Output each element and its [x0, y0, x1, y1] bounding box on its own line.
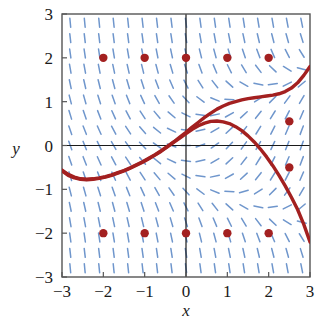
slope-mark: [168, 173, 175, 179]
slope-mark: [254, 206, 263, 208]
slope-mark: [113, 264, 114, 273]
slope-mark: [98, 95, 101, 104]
slope-mark: [84, 248, 85, 257]
slope-mark: [70, 218, 72, 227]
slope-mark: [200, 34, 202, 43]
slope-mark: [97, 157, 101, 165]
slope-mark: [254, 83, 263, 85]
slope-mark: [128, 248, 129, 257]
slope-mark: [69, 95, 71, 104]
slope-mark: [156, 34, 157, 43]
slope-mark: [199, 218, 202, 226]
slope-mark: [70, 64, 72, 73]
slope-mark: [98, 203, 100, 212]
slope-mark: [126, 126, 131, 134]
slope-mark: [84, 264, 85, 273]
slope-mark: [256, 65, 261, 72]
slope-mark: [200, 264, 201, 273]
slope-mark: [99, 34, 100, 43]
slope-mark: [84, 218, 86, 227]
slope-mark: [127, 80, 130, 89]
slope-mark: [226, 81, 233, 87]
slope-mark: [301, 264, 303, 273]
slope-mark: [69, 126, 72, 135]
y-axis-title: y: [10, 139, 20, 158]
slope-mark: [243, 264, 244, 273]
slope-mark: [142, 18, 143, 27]
slope-mark: [83, 111, 86, 120]
slope-mark: [225, 113, 233, 117]
slope-mark: [255, 189, 263, 194]
slope-mark: [84, 18, 85, 27]
slope-mark: [99, 248, 100, 257]
slope-mark: [127, 203, 130, 212]
data-point: [140, 229, 148, 237]
slope-mark: [69, 187, 71, 196]
slope-mark: [113, 18, 114, 27]
slope-mark: [200, 18, 201, 27]
slope-mark: [211, 159, 219, 164]
slope-mark: [257, 249, 259, 258]
slope-mark: [214, 34, 216, 43]
slope-mark: [241, 157, 247, 164]
slope-mark: [70, 18, 71, 27]
slope-mark: [98, 218, 100, 227]
slope-mark: [155, 203, 158, 211]
slope-mark: [84, 49, 85, 58]
slope-mark: [197, 189, 204, 194]
slope-mark: [211, 190, 219, 193]
slope-mark: [155, 188, 159, 196]
slope-mark: [212, 81, 218, 88]
slope-mark: [229, 248, 231, 257]
slope-mark: [113, 80, 115, 89]
slope-mark: [196, 176, 205, 177]
slope-mark: [227, 218, 231, 226]
slope-mark: [154, 111, 160, 118]
slope-mark: [167, 128, 175, 132]
x-tick-label: −3: [53, 282, 71, 301]
slope-mark: [170, 203, 174, 211]
slope-mark: [167, 159, 175, 163]
slope-mark: [98, 111, 101, 119]
slope-mark: [126, 111, 130, 119]
slope-mark: [270, 219, 276, 225]
data-point: [223, 54, 231, 62]
slope-mark: [171, 233, 173, 242]
slope-mark: [113, 248, 114, 257]
x-tick-label: −1: [136, 282, 154, 301]
slope-mark: [300, 111, 304, 119]
slope-mark: [270, 111, 275, 119]
slope-mark: [214, 233, 216, 242]
slope-mark: [283, 82, 291, 86]
slope-mark: [98, 64, 100, 73]
slope-mark: [170, 64, 173, 73]
slope-mark: [99, 264, 100, 273]
slope-mark: [126, 187, 129, 195]
slope-mark: [270, 96, 276, 102]
slope-mark: [213, 218, 217, 226]
slope-mark: [272, 34, 274, 43]
slope-mark: [240, 205, 248, 209]
data-point: [264, 229, 272, 237]
slope-mark: [84, 95, 86, 104]
slope-mark: [170, 80, 174, 88]
slope-mark: [98, 80, 100, 89]
slope-mark: [272, 249, 274, 258]
slope-mark: [243, 34, 245, 43]
slope-mark: [69, 157, 72, 166]
slope-mark: [112, 111, 116, 119]
y-tick-label: −3: [35, 268, 53, 287]
slope-mark: [127, 218, 129, 227]
slope-mark: [211, 98, 219, 101]
slope-mark: [285, 172, 289, 180]
slope-mark: [113, 203, 115, 212]
slope-mark: [286, 264, 288, 273]
slope-mark: [112, 95, 115, 103]
slope-mark: [127, 49, 129, 58]
slope-mark: [270, 188, 276, 194]
data-point: [264, 54, 272, 62]
slope-mark: [141, 80, 144, 89]
slope-mark: [113, 218, 115, 227]
slope-mark: [171, 264, 172, 273]
slope-mark: [97, 126, 101, 134]
